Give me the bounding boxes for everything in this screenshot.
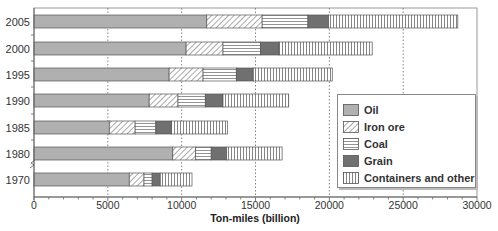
bar-segment-iron-ore	[149, 94, 178, 107]
bar-segment-coal	[135, 121, 156, 134]
bar-segment-oil	[34, 42, 186, 55]
x-axis-title: Ton-miles (billion)	[210, 212, 300, 224]
bar-segment-containers-and-other	[329, 15, 458, 28]
y-tick-label: 1995	[6, 69, 30, 81]
bar-segment-grain	[211, 147, 227, 160]
bar-segment-oil	[34, 121, 109, 134]
legend-swatch	[343, 155, 359, 167]
bar-segment-iron-ore	[173, 147, 196, 160]
bar-segment-grain	[261, 42, 279, 55]
bar-1990	[34, 94, 289, 107]
legend-item-containers-and-other: Containers and other	[343, 169, 475, 186]
bar-segment-oil	[34, 68, 169, 81]
bar-1995	[34, 68, 332, 81]
bar-segment-containers-and-other	[160, 173, 192, 186]
bar-segment-coal	[144, 173, 152, 186]
bar-segment-oil	[34, 94, 149, 107]
bar-segment-iron-ore	[186, 42, 223, 55]
legend-label: Containers and other	[364, 172, 475, 184]
legend-item-grain: Grain	[343, 152, 475, 169]
bar-segment-coal	[262, 15, 308, 28]
bar-segment-grain	[156, 121, 172, 134]
bar-segment-coal	[196, 147, 212, 160]
bar-segment-oil	[34, 147, 173, 160]
bar-segment-iron-ore	[169, 68, 203, 81]
legend-swatch	[343, 104, 359, 116]
bar-segment-containers-and-other	[223, 94, 289, 107]
bar-segment-iron-ore	[109, 121, 135, 134]
legend-swatch	[343, 172, 359, 184]
bar-segment-iron-ore	[207, 15, 262, 28]
bar-segment-oil	[34, 15, 207, 28]
bar-1985	[34, 121, 227, 134]
bar-segment-oil	[34, 173, 129, 186]
legend-swatch	[343, 121, 359, 133]
x-tick-label: 20000	[315, 199, 344, 211]
x-tick-label: 0	[31, 199, 37, 211]
y-tick-label: 1990	[6, 95, 30, 107]
legend-label: Grain	[364, 155, 393, 167]
bar-segment-iron-ore	[129, 173, 144, 186]
y-tick-label: 2000	[6, 43, 30, 55]
bar-2005	[34, 15, 458, 28]
bar-1980	[34, 147, 282, 160]
bar-segment-grain	[152, 173, 160, 186]
bar-segment-grain	[205, 94, 223, 107]
bar-segment-containers-and-other	[227, 147, 282, 160]
x-tick-label: 30000	[462, 199, 491, 211]
bar-segment-coal	[178, 94, 205, 107]
legend-item-iron-ore: Iron ore	[343, 118, 475, 135]
bar-segment-coal	[203, 68, 236, 81]
bar-1970	[34, 173, 192, 186]
bar-segment-containers-and-other	[253, 68, 332, 81]
legend-label: Iron ore	[364, 121, 405, 133]
y-tick-label: 1985	[6, 122, 30, 134]
x-tick-label: 10000	[167, 199, 196, 211]
bar-2000	[34, 42, 372, 55]
bar-segment-containers-and-other	[279, 42, 372, 55]
x-tick-label: 25000	[389, 199, 418, 211]
y-tick-label: 1970	[6, 174, 30, 186]
legend-item-oil: Oil	[343, 101, 475, 118]
legend-swatch	[343, 138, 359, 150]
bar-segment-grain	[236, 68, 253, 81]
x-tick-label: 15000	[241, 199, 270, 211]
y-tick-label: 2005	[6, 16, 30, 28]
legend: OilIron oreCoalGrainContainers and other	[337, 94, 476, 188]
x-tick-label: 5000	[96, 199, 120, 211]
y-axis: 2005200019951990198519801970	[6, 8, 35, 200]
legend-label: Coal	[364, 138, 388, 150]
x-axis: 050001000015000200002500030000	[31, 197, 492, 211]
legend-item-coal: Coal	[343, 135, 475, 152]
bar-segment-grain	[308, 15, 329, 28]
bar-segment-containers-and-other	[171, 121, 227, 134]
bar-segment-coal	[223, 42, 261, 55]
y-tick-label: 1980	[6, 148, 30, 160]
legend-label: Oil	[364, 104, 379, 116]
